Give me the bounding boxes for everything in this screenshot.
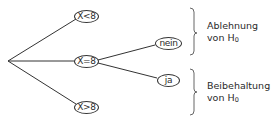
brace-retention: [190, 69, 197, 115]
edge-x-eq-8-ja: [98, 63, 157, 78]
node-x-equals-8: X=8: [74, 55, 99, 68]
outcome-retention-line1: Beibehaltung: [207, 80, 270, 92]
decision-tree-diagram: X<8 X=8 X>8 nein ja Ablehnung von H0 Bei…: [0, 0, 271, 122]
outcome-rejection-line2: von H0: [207, 32, 258, 46]
outcome-retention-line2: von H0: [207, 92, 270, 106]
edge-x-eq-8-nein: [98, 45, 155, 60]
edge-root-x-gt-8: [8, 61, 76, 104]
outcome-rejection-prefix: von H: [207, 32, 235, 43]
outcome-rejection: Ablehnung von H0: [207, 20, 258, 46]
outcome-retention: Beibehaltung von H0: [207, 80, 270, 106]
node-x-greater-than-8: X>8: [74, 101, 99, 114]
node-x-less-than-8: X<8: [74, 10, 99, 23]
node-ja: ja: [157, 74, 180, 87]
node-nein: nein: [155, 37, 182, 50]
brace-rejection: [190, 8, 197, 55]
outcome-retention-subscript: 0: [235, 96, 239, 104]
outcome-retention-prefix: von H: [207, 92, 235, 103]
edge-root-x-lt-8: [8, 19, 76, 61]
outcome-rejection-subscript: 0: [235, 36, 239, 44]
outcome-rejection-line1: Ablehnung: [207, 20, 258, 32]
